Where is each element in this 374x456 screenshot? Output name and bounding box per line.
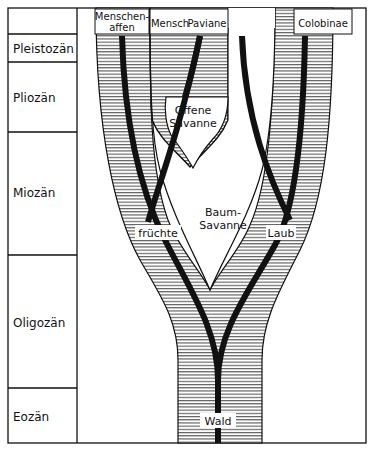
diet-laub: Laub [268, 227, 295, 240]
habitat-baum-line1: Baum- [205, 206, 241, 219]
taxon-menschenaffen-line2: affen [109, 22, 135, 33]
era-eozaen: Eozän [13, 410, 49, 424]
taxon-mensch: Mensch [151, 18, 189, 29]
era-pliozaen: Pliozän [13, 91, 56, 105]
era-oligozaen: Oligozän [13, 316, 65, 330]
era-pleistozaen: Pleistozän [13, 42, 74, 56]
taxon-colobinae: Colobinae [298, 18, 348, 29]
habitat-wald: Wald [205, 415, 232, 428]
taxon-paviane: Paviane [187, 18, 226, 29]
habitat-baum-line2: Savanne [199, 219, 247, 232]
era-dividers [8, 34, 77, 388]
taxon-menschenaffen-line1: Menschen- [95, 11, 150, 22]
era-miozaen: Miozän [13, 186, 55, 200]
diet-fruechte: früchte [138, 227, 178, 240]
evolution-diagram: Pleistozän Pliozän Miozän Oligozän Eozän… [0, 0, 374, 456]
habitat-offene-line2: Savanne [169, 117, 217, 130]
habitat-offene-line1: Offene [175, 104, 212, 117]
